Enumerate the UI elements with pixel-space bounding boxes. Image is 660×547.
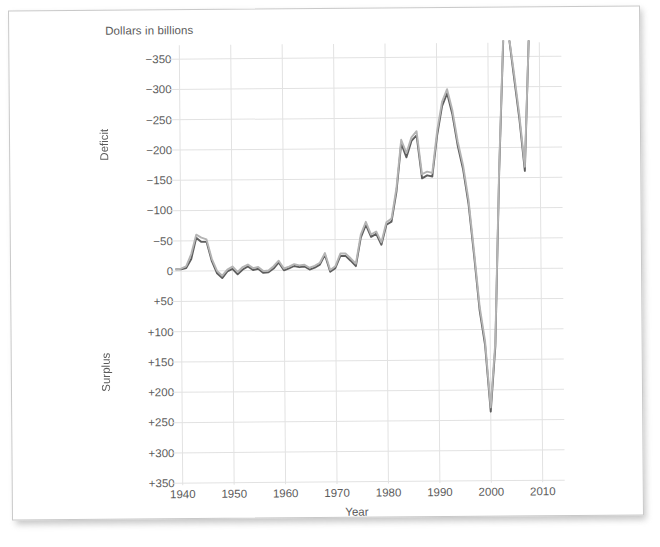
gridline-horizontal [172,359,564,362]
x-tick-label: 1940 [170,488,196,500]
gridline-horizontal [170,117,562,120]
gridline-vertical [436,43,439,483]
x-tick-label: 1960 [273,487,299,499]
gridlines [169,42,564,485]
gridline-vertical [539,42,542,482]
gridline-vertical [385,44,388,484]
gridline-horizontal [171,238,563,241]
x-tick-label: 2010 [530,485,556,497]
gridline-horizontal [172,450,564,453]
gridline-vertical [488,43,491,483]
gridline-vertical [282,44,285,484]
gridline-horizontal [171,208,563,211]
screenshot-root: Dollars in billions −350−300−250−200−150… [0,0,660,547]
deficit-surplus-line-chart: Dollars in billions −350−300−250−200−150… [9,7,643,520]
gridline-horizontal [172,420,564,423]
gridline-horizontal [171,298,563,301]
gridline-horizontal [170,177,562,180]
gridline-horizontal [170,86,562,89]
gridline-horizontal [170,147,562,150]
chart-plot-svg [9,7,643,520]
x-tick-label: 1980 [376,486,402,498]
gridline-vertical [179,45,182,485]
x-tick-label: 1950 [221,488,247,500]
x-tick-label: 2000 [479,486,505,498]
scanned-page-sheet: Dollars in billions −350−300−250−200−150… [8,6,644,521]
gridline-horizontal [172,329,564,332]
x-tick-label: 1970 [324,487,350,499]
gridline-horizontal [173,480,565,483]
x-axis-title-text: Year [345,506,368,518]
gridline-vertical [231,45,234,485]
gridline-horizontal [172,389,564,392]
x-tick-label: 1990 [427,486,453,498]
